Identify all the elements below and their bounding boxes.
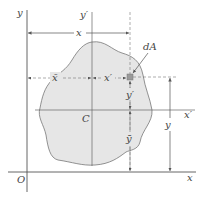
x-prime-distance-label: x′ bbox=[104, 72, 113, 83]
centroid-label: C bbox=[82, 113, 90, 124]
x-bar-label: x̄ bbox=[52, 72, 58, 83]
y-distance-label: y bbox=[164, 119, 171, 130]
y-axis-label: y bbox=[16, 7, 23, 18]
y-bar-label: ȳ bbox=[125, 133, 132, 144]
y-prime-axis-label: y′ bbox=[79, 9, 89, 20]
centroid-diagram: y y′ x x̄ x′ dA C y′ ȳ y x′ O x bbox=[0, 0, 208, 199]
area-region bbox=[39, 42, 152, 165]
dA-label: dA bbox=[143, 41, 157, 52]
dA-element bbox=[127, 74, 133, 80]
y-prime-distance-label: y′ bbox=[125, 89, 135, 100]
origin-label: O bbox=[17, 174, 25, 185]
x-distance-label: x bbox=[76, 27, 82, 38]
x-prime-axis-label: x′ bbox=[184, 109, 193, 120]
x-axis-label: x bbox=[187, 172, 193, 183]
